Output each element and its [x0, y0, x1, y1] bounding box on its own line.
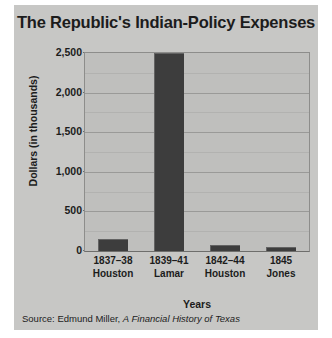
bar-slot — [85, 53, 141, 251]
bar — [154, 53, 184, 251]
bar-slot — [141, 53, 197, 251]
x-tick-label-line: Lamar — [141, 267, 197, 280]
x-tick-label-line: 1842–44 — [197, 254, 253, 267]
plot-wrapper: Dollars (in thousands) 05001,0001,5002,0… — [14, 45, 318, 260]
source-prefix: Source: Edmund Miller, — [22, 313, 123, 324]
source-note: Source: Edmund Miller, A Financial Histo… — [22, 313, 240, 324]
x-tick-label-line: 1845 — [253, 254, 309, 267]
bar-slot — [253, 53, 309, 251]
x-tick-label: 1845Jones — [253, 254, 309, 280]
chart-title: The Republic's Indian-Policy Expenses — [14, 13, 318, 32]
y-tick-label: 500 — [38, 204, 82, 216]
y-tick-label: 1,500 — [38, 125, 82, 137]
x-axis-tick-labels: 1837–38Houston1839–41Lamar1842–44Houston… — [85, 254, 309, 280]
y-tick-label: 1,000 — [38, 165, 82, 177]
y-tick-label: 0 — [38, 244, 82, 256]
x-tick-label: 1839–41Lamar — [141, 254, 197, 280]
source-book-title: A Financial History of Texas — [123, 313, 240, 324]
y-tick-label: 2,000 — [38, 86, 82, 98]
x-tick-label-line: 1839–41 — [141, 254, 197, 267]
bar — [210, 245, 240, 251]
x-tick-label: 1842–44Houston — [197, 254, 253, 280]
y-tick-label: 2,500 — [38, 46, 82, 58]
plot-area — [84, 52, 310, 252]
bar-slot — [197, 53, 253, 251]
x-tick-label-line: Houston — [197, 267, 253, 280]
x-tick-label: 1837–38Houston — [85, 254, 141, 280]
x-tick-label-line: Jones — [253, 267, 309, 280]
bar-series — [85, 53, 309, 251]
x-tick-label-line: Houston — [85, 267, 141, 280]
chart-figure: The Republic's Indian-Policy Expenses Do… — [14, 5, 318, 330]
bar — [266, 247, 296, 251]
bar — [98, 239, 128, 251]
x-tick-label-line: 1837–38 — [85, 254, 141, 267]
x-axis-label: Years — [85, 298, 309, 310]
